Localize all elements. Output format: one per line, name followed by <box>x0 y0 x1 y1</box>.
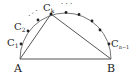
point-cn-1 <box>108 43 111 46</box>
point-c2 <box>27 30 30 33</box>
point-p7 <box>91 20 94 23</box>
label-ck: Ck <box>43 2 55 14</box>
ellipsis-left: · · · <box>26 7 40 20</box>
point-c1 <box>20 43 23 46</box>
label-c2: C2 <box>14 21 26 33</box>
point-p3 <box>37 19 40 22</box>
semicircle-diagram: A B C1 C2 Ck Cn−1 · · · · · · <box>0 0 135 80</box>
label-b: B <box>107 62 115 75</box>
point-p6 <box>78 13 81 16</box>
segment-ck-b <box>51 14 111 59</box>
point-p5 <box>65 11 68 14</box>
semicircle-arc <box>20 13 111 59</box>
ellipsis-top: · · · <box>61 0 72 8</box>
label-c1: C1 <box>7 37 18 49</box>
segment-a-ck <box>20 14 51 59</box>
point-p8 <box>99 29 102 32</box>
label-a: A <box>13 62 23 75</box>
label-cn-1: Cn−1 <box>111 38 129 50</box>
